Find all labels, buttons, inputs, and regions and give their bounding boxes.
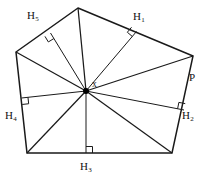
label-p: P bbox=[189, 72, 195, 83]
pentagon-outline-group bbox=[16, 8, 193, 153]
label-h3: H3 bbox=[80, 161, 91, 172]
lbl-h2-subscript: 2 bbox=[190, 115, 194, 123]
lbl-h4-subscript: 4 bbox=[13, 115, 17, 123]
pentagon-outline bbox=[16, 8, 193, 153]
pentagon-diagram-svg bbox=[0, 0, 203, 179]
lbl-h1-subscript: 1 bbox=[141, 16, 145, 24]
label-h1: H1 bbox=[133, 11, 144, 22]
lbl-h3-subscript: 3 bbox=[88, 166, 92, 174]
geometry-figure: H5 H1 P H2 H4 H3 x bbox=[0, 0, 203, 179]
interior-point-dot bbox=[83, 88, 89, 94]
label-h4: H4 bbox=[5, 110, 16, 121]
interior-point-group bbox=[83, 88, 89, 94]
lbl-h5-subscript: 5 bbox=[35, 15, 39, 23]
label-h5: H5 bbox=[27, 10, 38, 21]
label-h2: H2 bbox=[182, 110, 193, 121]
label-interior-point-x: x bbox=[92, 80, 97, 90]
